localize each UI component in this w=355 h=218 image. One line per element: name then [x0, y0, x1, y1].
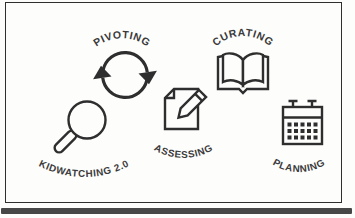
item-assessing: ASSESSING — [153, 89, 215, 160]
figure: PIVOTING CURATING — [0, 0, 355, 218]
diagram-canvas: PIVOTING CURATING — [0, 0, 354, 217]
planning-label: PLANNING — [272, 157, 328, 175]
curating-label: CURATING — [210, 26, 277, 48]
assessing-label: ASSESSING — [153, 142, 215, 160]
item-curating: CURATING — [210, 26, 277, 93]
calendar-icon — [283, 101, 322, 144]
kidwatching-label: KIDWATCHING 2.0 — [38, 158, 131, 179]
page-edge-bar — [1, 208, 352, 214]
item-kidwatching: KIDWATCHING 2.0 — [38, 102, 131, 179]
item-pivoting: PIVOTING — [91, 28, 159, 102]
figure-frame: PIVOTING CURATING — [5, 2, 342, 203]
open-book-icon — [218, 54, 268, 94]
magnifying-glass-icon — [53, 102, 106, 155]
pivoting-label: PIVOTING — [91, 28, 153, 48]
item-planning: PLANNING — [272, 101, 328, 174]
document-pencil-icon — [165, 89, 206, 129]
cycle-arrows-icon — [92, 49, 160, 102]
